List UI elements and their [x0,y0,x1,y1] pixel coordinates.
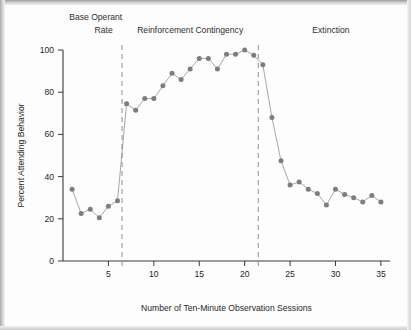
figure-container: Base OperantRateReinforcement Contingenc… [0,0,411,330]
data-point-29 [324,203,329,208]
x-tick-label-20: 20 [240,269,250,279]
phase-label-group: Base OperantRateReinforcement Contingenc… [69,12,350,35]
data-point-4 [97,215,102,220]
y-tick-label-20: 20 [44,214,54,224]
data-point-11 [160,83,165,88]
y-tick-label-80: 80 [44,87,54,97]
data-point-26 [297,179,302,184]
data-point-21 [251,53,256,58]
data-point-31 [342,192,347,197]
data-point-16 [206,56,211,61]
data-point-14 [188,66,193,71]
data-point-22 [260,62,265,67]
x-tick-label-5: 5 [106,269,111,279]
data-point-28 [315,191,320,196]
data-point-13 [179,77,184,82]
data-point-17 [215,66,220,71]
data-point-9 [142,96,147,101]
y-tick-label-40: 40 [44,172,54,182]
data-point-18 [224,52,229,57]
data-point-1 [70,187,75,192]
y-tick-label-0: 0 [49,256,54,266]
x-tick-label-15: 15 [194,269,204,279]
data-series-group [70,48,384,221]
data-point-27 [306,187,311,192]
data-point-6 [115,198,120,203]
tick-group [58,50,381,266]
data-point-7 [124,101,129,106]
data-point-33 [360,199,365,204]
phase-label-base-operant-rate-line1: Base Operant [69,12,123,22]
data-point-19 [233,52,238,57]
data-point-15 [197,56,202,61]
y-axis-title: Percent Attending Behavior [16,103,26,207]
x-axis-title: Number of Ten-Minute Observation Session… [141,303,312,313]
data-point-25 [288,183,293,188]
data-point-34 [369,193,374,198]
phase-label-base-operant-rate-line2: Rate [95,25,113,35]
x-tick-label-35: 35 [376,269,386,279]
phase-divider-group [122,45,258,269]
data-point-12 [170,71,175,76]
data-point-20 [242,48,247,53]
data-point-35 [378,199,383,204]
data-point-3 [88,207,93,212]
data-line [72,50,381,218]
x-tick-label-25: 25 [285,269,295,279]
y-tick-label-100: 100 [40,45,55,55]
phase-label-extinction: Extinction [312,25,349,35]
phase-label-reinforcement-contingency: Reinforcement Contingency [137,25,244,35]
y-tick-label-60: 60 [44,129,54,139]
data-point-2 [79,211,84,216]
data-point-32 [351,195,356,200]
line-chart: Base OperantRateReinforcement Contingenc… [0,0,411,330]
data-point-23 [269,115,274,120]
data-point-8 [133,108,138,113]
x-tick-label-30: 30 [331,269,341,279]
data-point-10 [151,96,156,101]
x-tick-label-10: 10 [149,269,159,279]
data-point-5 [106,204,111,209]
data-point-24 [279,158,284,163]
tick-label-group: 0204060801005101520253035 [40,45,386,279]
axes-group [63,50,390,261]
data-point-30 [333,187,338,192]
